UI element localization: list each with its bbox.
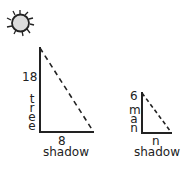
man-height-value: 6 [130,90,138,102]
tree-shadow-label: shadow [43,146,89,158]
vertical-letter: e [27,122,37,131]
vertical-letter: n [129,124,139,133]
tree-label-letters: tree [27,95,37,131]
sun-icon [7,10,34,36]
man-sun-ray [142,93,171,132]
man-label-letters: man [129,106,139,133]
tree-triangle [39,47,94,132]
tree-sun-ray [40,48,93,131]
man-triangle [141,92,172,133]
man-shadow-label: shadow [134,146,180,158]
tree-height-value: 18 [22,71,37,83]
tree-height-label: tree [27,95,37,131]
man-height-label: man [129,106,139,133]
